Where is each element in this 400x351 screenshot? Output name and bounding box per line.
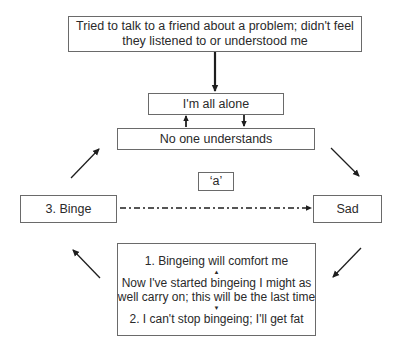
triangle-down-icon: ▼	[214, 304, 220, 312]
thought-middle-2: well carry on; this will be the last tim…	[118, 290, 315, 304]
node-all-alone: I'm all alone	[148, 93, 284, 115]
trigger-line-2: they listened to or understood me	[122, 34, 308, 49]
node-thoughts: 1. Bingeing will comfort me ▲ Now I've s…	[117, 243, 316, 336]
all-alone-label: I'm all alone	[183, 97, 249, 112]
thought-1: 1. Bingeing will comfort me	[145, 254, 288, 268]
node-sad: Sad	[313, 195, 382, 223]
node-no-one-understands: No one understands	[117, 128, 315, 150]
sad-label: Sad	[336, 202, 358, 217]
arrow-thoughts-to-binge	[73, 250, 100, 278]
thought-middle-1: Now I've started bingeing I might as	[122, 276, 312, 290]
label-a-text: ‘a’	[210, 174, 223, 189]
binge-label: 3. Binge	[46, 202, 92, 217]
no-one-understands-label: No one understands	[160, 132, 273, 147]
trigger-line-1: Tried to talk to a friend about a proble…	[76, 19, 354, 34]
node-binge: 3. Binge	[20, 195, 117, 223]
arrow-binge-to-noone	[71, 149, 99, 178]
thought-2: 2. I can't stop bingeing; I'll get fat	[129, 312, 303, 326]
node-trigger: Tried to talk to a friend about a proble…	[68, 16, 362, 52]
arrow-sad-to-thoughts	[333, 248, 361, 277]
arrow-noone-to-sad	[331, 148, 359, 176]
triangle-up-icon: ▲	[214, 268, 220, 276]
node-label-a: ‘a’	[198, 172, 234, 191]
